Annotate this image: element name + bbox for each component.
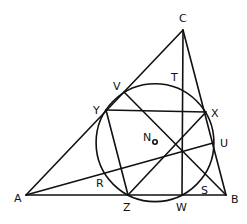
label-s: S [201, 184, 208, 197]
segment-ca [26, 30, 183, 195]
label-u: U [220, 137, 228, 150]
segment-au [26, 143, 213, 195]
center-point-n [153, 140, 157, 144]
label-b: B [231, 193, 239, 206]
label-c: C [179, 12, 187, 25]
segment-zx [128, 112, 206, 195]
label-w: W [176, 201, 187, 214]
label-z: Z [123, 201, 131, 214]
label-v: V [113, 80, 121, 93]
label-x: X [211, 107, 219, 120]
segment-yx [106, 110, 206, 112]
label-n: N [143, 131, 151, 144]
geometry-diagram: ABCVYXUTNRSZW [0, 0, 247, 224]
label-y: Y [92, 104, 100, 117]
label-t: T [170, 71, 178, 84]
label-r: R [96, 177, 104, 190]
label-a: A [14, 192, 22, 205]
segment-cw [182, 30, 183, 195]
segment-yz [106, 110, 128, 195]
